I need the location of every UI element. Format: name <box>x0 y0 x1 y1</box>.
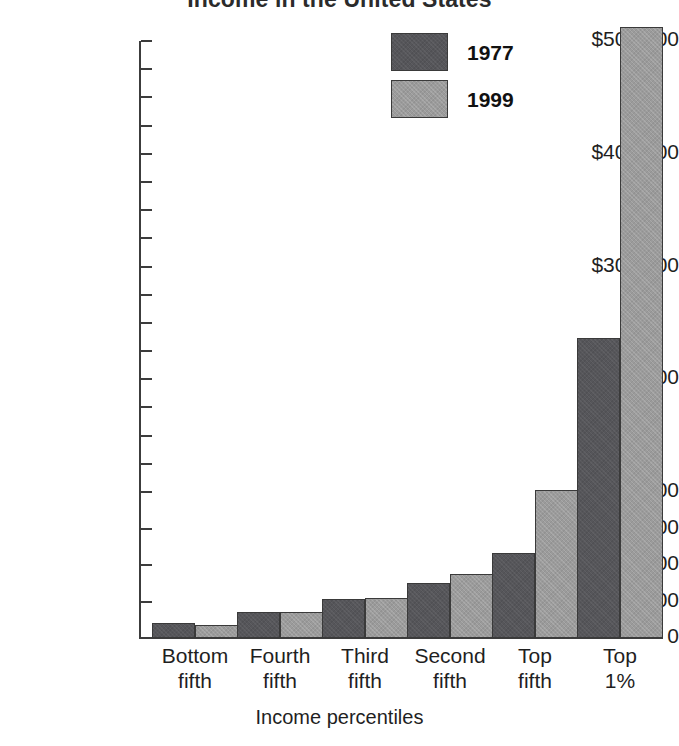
y-axis-tick <box>141 435 152 437</box>
bar <box>195 625 238 638</box>
y-axis-tick <box>141 637 152 639</box>
y-axis-tick <box>141 181 152 183</box>
y-axis-tick <box>141 378 152 380</box>
y-axis-tick <box>141 350 152 352</box>
y-axis-tick <box>141 601 152 603</box>
y-axis-tick <box>141 322 152 324</box>
y-axis-tick <box>141 564 152 566</box>
x-axis-category-label: Top1% <box>568 643 672 693</box>
y-axis-tick <box>141 528 152 530</box>
bar <box>535 490 578 638</box>
y-axis-tick <box>141 463 152 465</box>
y-axis-tick <box>141 96 152 98</box>
bar <box>577 338 620 638</box>
bar <box>450 574 493 638</box>
category-label-line: Top <box>568 643 672 668</box>
y-axis-tick <box>141 406 152 408</box>
bar <box>152 623 195 638</box>
chart-title: Income in the United States <box>0 0 679 13</box>
y-axis-tick <box>141 491 152 493</box>
legend-label: 1999 <box>467 88 514 112</box>
bar <box>237 612 280 638</box>
y-axis-tick <box>141 40 152 42</box>
y-axis-tick <box>141 237 152 239</box>
bar <box>365 598 408 638</box>
bar <box>620 27 663 638</box>
legend-swatch <box>391 33 448 71</box>
category-label-line: 1% <box>568 668 672 693</box>
legend-label: 1977 <box>467 41 514 65</box>
y-axis-tick <box>141 266 152 268</box>
y-axis-tick <box>141 153 152 155</box>
y-axis-tick <box>141 294 152 296</box>
bar-chart: Income in the United States $500,000$400… <box>0 0 679 746</box>
y-axis-tick <box>141 125 152 127</box>
y-axis-tick <box>141 68 152 70</box>
x-axis-title: Income percentiles <box>0 706 679 729</box>
bar <box>407 583 450 638</box>
bar <box>280 612 323 638</box>
y-axis-tick <box>141 209 152 211</box>
legend-swatch <box>391 80 448 118</box>
bar <box>322 599 365 638</box>
bar <box>492 553 535 638</box>
y-axis-line <box>139 41 141 639</box>
